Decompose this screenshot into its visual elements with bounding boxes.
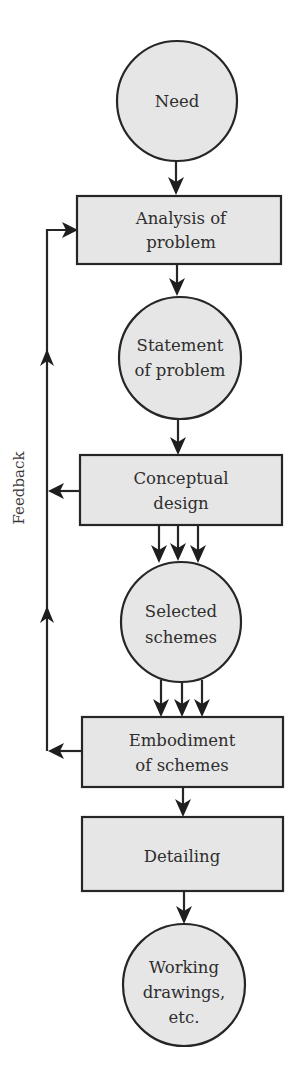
edge-embodiment-detailing: [175, 788, 191, 817]
node-statement-line2: of problem: [135, 361, 226, 380]
node-statement: Statement of problem: [119, 297, 241, 419]
feedback-label: Feedback: [10, 451, 28, 525]
node-statement-line1: Statement: [137, 336, 224, 355]
node-working-line3: etc.: [169, 1008, 200, 1027]
node-conceptual-line1: Conceptual: [133, 469, 228, 488]
node-working-line2: drawings,: [143, 983, 226, 1002]
edge-need-analysis: [168, 161, 184, 195]
node-selected-line2: schemes: [145, 628, 217, 647]
feedback-loop: Feedback: [10, 222, 82, 759]
node-embodiment-line1: Embodiment: [129, 731, 236, 750]
edge-selected-embodiment: [153, 680, 210, 717]
node-selected-line1: Selected: [145, 602, 218, 621]
node-conceptual: Conceptual design: [80, 455, 282, 525]
node-embodiment-line2: of schemes: [135, 756, 228, 775]
node-detailing: Detailing: [82, 817, 283, 891]
node-detailing-label: Detailing: [144, 847, 221, 866]
edge-detailing-working: [176, 892, 192, 924]
node-selected: Selected schemes: [121, 562, 241, 682]
node-analysis-line1: Analysis of: [135, 209, 228, 228]
edge-analysis-statement: [169, 265, 185, 296]
node-working-line1: Working: [149, 958, 220, 977]
node-working: Working drawings, etc.: [123, 924, 245, 1046]
node-embodiment: Embodiment of schemes: [82, 717, 283, 787]
node-analysis: Analysis of problem: [77, 196, 281, 264]
node-need-label: Need: [155, 92, 200, 111]
node-analysis-line2: problem: [146, 233, 216, 252]
edge-statement-conceptual: [170, 420, 186, 455]
node-need: Need: [117, 41, 237, 161]
edge-conceptual-selected: [151, 526, 206, 563]
design-process-flowchart: Feedback Need Analysis of problem Statem…: [0, 0, 302, 1085]
node-conceptual-line2: design: [153, 494, 209, 513]
